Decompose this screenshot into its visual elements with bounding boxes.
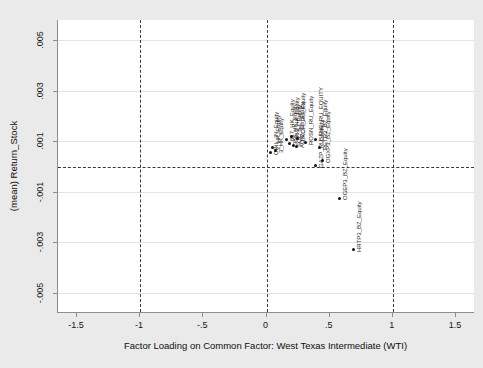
x-tick-label: 0	[263, 320, 268, 330]
y-tick-label: -.005	[35, 283, 45, 304]
y-tick-label: .005	[35, 31, 45, 49]
x-tick-label: 1	[389, 320, 394, 330]
x-tick-mark	[266, 313, 267, 317]
x-tick-label: -1	[135, 320, 143, 330]
x-tick-mark	[202, 313, 203, 317]
y-tick-label: -.003	[35, 232, 45, 253]
plot-canvas: OINL_IN_Equity2_HK_Equity3_HK_Equity857_…	[58, 20, 474, 312]
data-point-label: HRTP3_BZ_Equity	[356, 201, 362, 252]
y-tick-label: .003	[35, 82, 45, 100]
data-point-label: OGXP3_BZ_Equity	[325, 111, 331, 163]
data-point-label: ROSN_RU_Equity	[308, 95, 314, 144]
data-point-marker	[352, 248, 355, 251]
x-tick-mark	[455, 313, 456, 317]
y-tick-label: -.001	[35, 181, 45, 202]
x-tick-label: .5	[325, 320, 333, 330]
data-point-marker	[338, 197, 341, 200]
reference-line-horizontal	[58, 167, 474, 168]
x-tick-label: -1.5	[68, 320, 84, 330]
data-point-marker	[269, 151, 272, 154]
data-point-label: OGEP3_BZ_Equity	[342, 148, 348, 200]
data-point-marker	[292, 144, 295, 147]
x-tick-mark	[139, 313, 140, 317]
data-point-marker	[295, 145, 298, 148]
data-point-label: 3_HK_Equity	[278, 118, 284, 153]
x-tick-label: -.5	[197, 320, 208, 330]
x-tick-mark	[329, 313, 330, 317]
y-tick-label: .001	[35, 132, 45, 150]
y-axis-title: (mean) Return_Stock	[8, 121, 19, 211]
data-point-marker	[285, 138, 288, 141]
data-point-marker	[304, 141, 307, 144]
x-tick-mark	[392, 313, 393, 317]
data-point-marker	[288, 142, 291, 145]
x-tick-label: 1.5	[449, 320, 462, 330]
plot-area: OINL_IN_Equity2_HK_Equity3_HK_Equity857_…	[57, 20, 474, 313]
data-point-marker	[271, 146, 274, 149]
chart-figure: (mean) Return_Stock .005.003.001-.001-.0…	[0, 0, 483, 368]
x-tick-mark	[76, 313, 77, 317]
x-axis-title: Factor Loading on Common Factor: West Te…	[57, 340, 474, 351]
data-point-label: GAZP_RU_Equity	[318, 120, 324, 168]
